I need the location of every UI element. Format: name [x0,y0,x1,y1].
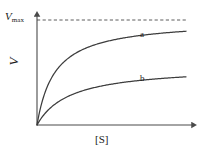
curve-b [37,77,186,125]
x-axis-label: [S] [95,134,108,145]
enzyme-kinetics-figure: Vmax V [S] a b [0,0,209,157]
vmax-symbol: V [5,10,12,22]
curve-b-label: b [140,74,145,83]
curve-a-label: a [140,30,144,39]
vmax-axis-label: Vmax [5,11,24,24]
y-axis-label: V [7,58,20,66]
vmax-subscript: max [12,16,24,24]
